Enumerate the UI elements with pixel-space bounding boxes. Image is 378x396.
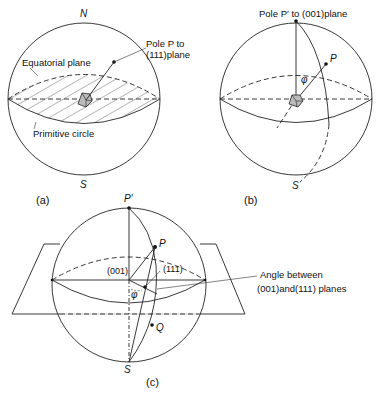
projection-plane [12,244,245,314]
caption-b: (b) [244,194,257,206]
phi-label-b: φ [301,74,308,85]
s-to-p-line [129,247,155,362]
pole-label-line1-a: Pole P to [146,38,184,49]
equatorial-leader [30,68,38,76]
great-circle-back-b [300,124,329,182]
plane-111-label: (111) [163,264,183,274]
crystal-icon-b [289,95,303,107]
p-label-c: P [159,238,166,249]
q-label: Q [156,322,164,333]
pole-p-prime-dot-b [294,19,298,23]
caption-a: (a) [36,194,49,206]
great-circle-front-b [296,21,329,124]
pole-p-dot-b [324,62,328,66]
great-circle-c [129,208,156,362]
plane-001-label: (001) [107,266,128,276]
phi-label-c: φ [131,289,138,300]
pole-label-line2-a: (111)plane [146,49,190,60]
pole-p-prime-label-b: Pole P′ to (001)plane [259,8,347,19]
angle-leader [157,276,257,289]
equatorial-plane-label: Equatorial plane [22,57,91,68]
south-label-a: S [80,179,87,190]
south-label-b: S [292,180,299,191]
equator-end-right [204,279,207,282]
angle-label-line1: Angle between [260,269,323,280]
equator-end-left [51,279,54,282]
primitive-circle-label: Primitive circle [33,128,94,139]
equator-front-arc-c [52,280,205,303]
stereographic-projection-figure: Pole P to (111)plane Equatorial plane Pr… [0,0,378,396]
point-q-dot [150,323,154,327]
south-label-c: S [124,364,131,375]
north-label-a: N [80,8,88,19]
p-prime-label-c: P′ [124,193,134,204]
p-label-b: P [330,53,337,64]
panel-c: φ Q P′ P (001) (111) S Angle between (00… [12,193,347,388]
caption-c: (c) [146,376,159,388]
111-leader [145,271,160,287]
panel-a: Pole P to (111)plane Equatorial plane Pr… [8,8,190,206]
pole-leader-a [114,48,146,62]
angle-label-line2: (001)and(111) planes [257,283,347,294]
panel-b: P φ Pole P′ to (001)plane S (b) [220,8,372,206]
